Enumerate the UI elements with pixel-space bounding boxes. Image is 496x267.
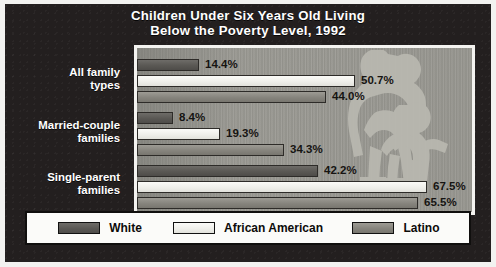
bar-row: 44.0%: [137, 91, 472, 103]
bar-group-single-parent-families: 42.2% 67.5% 65.5%: [137, 165, 472, 212]
bar-value-label: 42.2%: [324, 164, 357, 177]
bar-row: 65.5%: [137, 197, 472, 209]
plot-frame: 14.4% 50.7% 44.0% 8.4%: [134, 45, 475, 215]
bar-latino: [137, 197, 418, 209]
bar-value-label: 44.0%: [332, 90, 365, 103]
bar-value-label: 19.3%: [226, 127, 259, 140]
legend-item-african-american: African American: [173, 221, 323, 235]
bar-group-married-couple-families: 8.4% 19.3% 34.3%: [137, 112, 472, 160]
bar-value-label: 50.7%: [361, 74, 394, 87]
bar-latino: [137, 144, 284, 156]
category-label-line-1: All family: [5, 66, 120, 79]
category-label-line-2: families: [5, 184, 120, 197]
chart-legend: White African American Latino: [25, 211, 471, 245]
bar-group-all-family-types: 14.4% 50.7% 44.0%: [137, 59, 472, 107]
chart-panel: Children Under Six Years Old Living Belo…: [5, 4, 491, 262]
legend-label: African American: [224, 221, 323, 235]
bar-row: 8.4%: [137, 112, 472, 124]
plot-area: 14.4% 50.7% 44.0% 8.4%: [137, 48, 472, 212]
bar-value-label: 8.4%: [179, 111, 205, 124]
category-label-line-2: types: [5, 79, 120, 92]
chart-title-line-1: Children Under Six Years Old Living: [5, 9, 491, 24]
bar-value-label: 67.5%: [433, 180, 466, 193]
category-label-line-1: Married-couple: [5, 119, 120, 132]
chart-title-line-2: Below the Poverty Level, 1992: [5, 24, 491, 39]
category-label-married-couple-families: Married-couple families: [5, 119, 120, 144]
legend-swatch-latino: [352, 222, 394, 234]
legend-item-latino: Latino: [323, 221, 469, 235]
legend-label: White: [109, 221, 142, 235]
bar-african-american: [137, 128, 220, 140]
bar-row: 67.5%: [137, 181, 472, 193]
legend-swatch-white: [58, 222, 100, 234]
bar-value-label: 65.5%: [424, 196, 457, 209]
bar-row: 19.3%: [137, 128, 472, 140]
bar-white: [137, 59, 199, 71]
bar-latino: [137, 91, 326, 103]
bar-value-label: 34.3%: [290, 143, 323, 156]
category-label-line-2: families: [5, 132, 120, 145]
bar-african-american: [137, 181, 427, 193]
category-label-single-parent-families: Single-parent families: [5, 171, 120, 196]
category-label-all-family-types: All family types: [5, 66, 120, 91]
legend-swatch-african-american: [173, 222, 215, 234]
bar-value-label: 14.4%: [205, 58, 238, 71]
chart-figure: Children Under Six Years Old Living Belo…: [0, 0, 496, 267]
legend-label: Latino: [403, 221, 439, 235]
bar-row: 50.7%: [137, 75, 472, 87]
legend-item-white: White: [27, 221, 173, 235]
bar-row: 42.2%: [137, 165, 472, 177]
bar-white: [137, 165, 318, 177]
bar-african-american: [137, 75, 355, 87]
bar-row: 14.4%: [137, 59, 472, 71]
bar-row: 34.3%: [137, 144, 472, 156]
bar-white: [137, 112, 173, 124]
category-label-line-1: Single-parent: [5, 171, 120, 184]
chart-title: Children Under Six Years Old Living Belo…: [5, 9, 491, 38]
